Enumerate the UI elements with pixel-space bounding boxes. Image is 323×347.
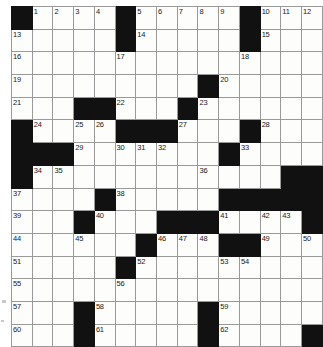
crossword-cell[interactable] (281, 120, 302, 143)
crossword-cell[interactable] (32, 301, 53, 324)
crossword-cell[interactable] (53, 211, 74, 234)
crossword-cell[interactable]: 10 (260, 7, 281, 30)
crossword-cell[interactable] (198, 52, 219, 75)
crossword-cell[interactable]: 25 (74, 120, 95, 143)
crossword-cell[interactable] (260, 324, 281, 347)
crossword-cell[interactable]: 46 (157, 233, 178, 256)
crossword-cell[interactable] (157, 188, 178, 211)
crossword-cell[interactable] (281, 97, 302, 120)
crossword-cell[interactable]: 26 (94, 120, 115, 143)
crossword-cell[interactable] (157, 165, 178, 188)
crossword-cell[interactable] (53, 301, 74, 324)
crossword-cell[interactable] (136, 75, 157, 98)
crossword-cell[interactable]: 2 (53, 7, 74, 30)
crossword-cell[interactable]: 39 (12, 211, 33, 234)
crossword-cell[interactable]: 60 (12, 324, 33, 347)
crossword-cell[interactable] (74, 75, 95, 98)
crossword-cell[interactable] (32, 256, 53, 279)
crossword-cell[interactable] (177, 279, 198, 302)
crossword-cell[interactable]: 21 (12, 97, 33, 120)
crossword-cell[interactable] (53, 233, 74, 256)
crossword-cell[interactable] (32, 324, 53, 347)
crossword-cell[interactable] (157, 324, 178, 347)
crossword-cell[interactable] (260, 165, 281, 188)
crossword-cell[interactable]: 35 (53, 165, 74, 188)
crossword-cell[interactable] (94, 29, 115, 52)
crossword-cell[interactable] (74, 188, 95, 211)
crossword-cell[interactable]: 42 (260, 211, 281, 234)
crossword-cell[interactable] (157, 29, 178, 52)
crossword-cell[interactable]: 59 (219, 301, 240, 324)
crossword-cell[interactable] (32, 211, 53, 234)
crossword-cell[interactable] (260, 97, 281, 120)
crossword-cell[interactable]: 27 (177, 120, 198, 143)
crossword-cell[interactable] (302, 256, 323, 279)
crossword-cell[interactable] (115, 301, 136, 324)
crossword-cell[interactable] (136, 324, 157, 347)
crossword-cell[interactable]: 30 (115, 143, 136, 166)
crossword-cell[interactable] (281, 52, 302, 75)
crossword-cell[interactable]: 34 (32, 165, 53, 188)
crossword-cell[interactable] (32, 188, 53, 211)
crossword-cell[interactable] (219, 52, 240, 75)
crossword-cell[interactable] (177, 29, 198, 52)
crossword-cell[interactable] (239, 279, 260, 302)
crossword-cell[interactable] (177, 52, 198, 75)
crossword-cell[interactable]: 11 (281, 7, 302, 30)
crossword-cell[interactable] (157, 301, 178, 324)
crossword-cell[interactable]: 37 (12, 188, 33, 211)
crossword-cell[interactable] (239, 97, 260, 120)
crossword-cell[interactable] (136, 211, 157, 234)
crossword-cell[interactable] (198, 143, 219, 166)
crossword-cell[interactable] (281, 75, 302, 98)
crossword-cell[interactable] (260, 256, 281, 279)
crossword-cell[interactable]: 6 (157, 7, 178, 30)
crossword-cell[interactable]: 48 (198, 233, 219, 256)
crossword-cell[interactable]: 58 (94, 301, 115, 324)
crossword-cell[interactable]: 50 (302, 233, 323, 256)
crossword-cell[interactable]: 56 (115, 279, 136, 302)
crossword-cell[interactable] (74, 52, 95, 75)
crossword-cell[interactable]: 17 (115, 52, 136, 75)
crossword-cell[interactable]: 4 (94, 7, 115, 30)
crossword-grid[interactable]: 1234567891011121314151617181920212223242… (11, 6, 323, 347)
crossword-cell[interactable] (302, 97, 323, 120)
crossword-cell[interactable] (157, 256, 178, 279)
crossword-cell[interactable]: 7 (177, 7, 198, 30)
crossword-cell[interactable] (74, 256, 95, 279)
crossword-cell[interactable] (94, 256, 115, 279)
crossword-cell[interactable] (260, 52, 281, 75)
crossword-cell[interactable]: 32 (157, 143, 178, 166)
crossword-cell[interactable] (94, 233, 115, 256)
crossword-cell[interactable] (302, 52, 323, 75)
crossword-cell[interactable]: 53 (219, 256, 240, 279)
crossword-cell[interactable]: 36 (198, 165, 219, 188)
crossword-cell[interactable] (94, 52, 115, 75)
crossword-cell[interactable] (136, 279, 157, 302)
crossword-cell[interactable]: 13 (12, 29, 33, 52)
crossword-cell[interactable] (32, 279, 53, 302)
crossword-cell[interactable]: 31 (136, 143, 157, 166)
crossword-cell[interactable] (115, 75, 136, 98)
crossword-cell[interactable]: 61 (94, 324, 115, 347)
crossword-cell[interactable] (198, 120, 219, 143)
crossword-cell[interactable] (32, 75, 53, 98)
crossword-cell[interactable]: 20 (219, 75, 240, 98)
crossword-cell[interactable] (115, 165, 136, 188)
crossword-cell[interactable] (260, 75, 281, 98)
crossword-cell[interactable] (94, 165, 115, 188)
crossword-cell[interactable] (177, 256, 198, 279)
crossword-cell[interactable]: 51 (12, 256, 33, 279)
crossword-cell[interactable]: 9 (219, 7, 240, 30)
crossword-cell[interactable] (177, 143, 198, 166)
crossword-cell[interactable]: 18 (239, 52, 260, 75)
crossword-cell[interactable]: 52 (136, 256, 157, 279)
crossword-cell[interactable]: 54 (239, 256, 260, 279)
crossword-cell[interactable]: 24 (32, 120, 53, 143)
crossword-cell[interactable] (32, 233, 53, 256)
crossword-cell[interactable] (260, 301, 281, 324)
crossword-cell[interactable] (94, 75, 115, 98)
crossword-cell[interactable] (198, 29, 219, 52)
crossword-cell[interactable]: 44 (12, 233, 33, 256)
crossword-cell[interactable] (302, 75, 323, 98)
